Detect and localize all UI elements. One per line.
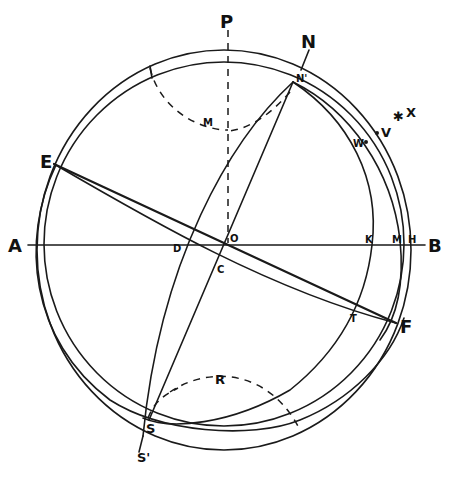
label-h: H	[408, 234, 416, 245]
celestial-sphere-diagram: P N N' E A B O C D K M H F T S S' R M V …	[0, 0, 462, 487]
label-s: S	[146, 421, 155, 436]
label-m-axis: M	[392, 234, 402, 245]
label-m-upper: M	[203, 117, 213, 128]
label-x: X	[406, 105, 416, 120]
label-s-prime: S'	[137, 450, 150, 465]
label-t: T	[350, 313, 357, 324]
label-f: F	[400, 316, 412, 337]
label-n: N	[301, 31, 316, 52]
point-w	[364, 140, 368, 144]
label-a: A	[8, 235, 22, 256]
ring-tick	[150, 66, 152, 78]
label-b: B	[428, 235, 442, 256]
label-v: V	[381, 125, 391, 140]
n-tick	[301, 50, 309, 70]
dashed-arc-m	[150, 68, 228, 130]
line-n-s	[149, 82, 293, 420]
label-c: C	[217, 264, 224, 275]
label-n-prime: N'	[296, 73, 307, 84]
label-o: O	[230, 233, 239, 244]
star-icon: ✱	[393, 109, 404, 124]
label-d: D	[173, 243, 181, 254]
outer-circle	[37, 50, 411, 450]
label-r: R	[215, 372, 225, 387]
label-p: P	[220, 11, 233, 32]
label-k: K	[365, 234, 374, 245]
label-e: E	[40, 151, 52, 172]
label-w: W	[353, 138, 364, 149]
point-v	[375, 131, 379, 135]
